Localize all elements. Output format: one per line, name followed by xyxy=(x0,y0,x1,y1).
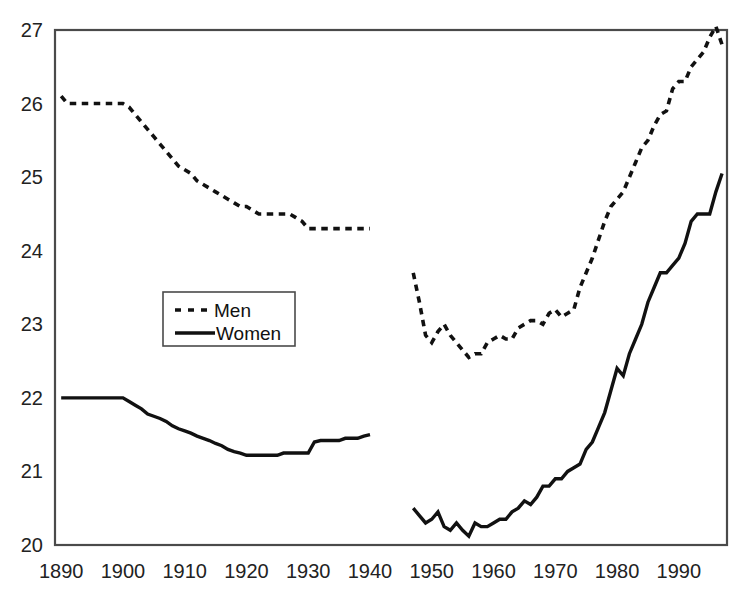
x-axis-tick-1930: 1930 xyxy=(286,560,331,582)
x-axis-tick-1950: 1950 xyxy=(410,560,455,582)
legend-label-women: Women xyxy=(216,323,281,344)
x-axis-tick-1960: 1960 xyxy=(471,560,516,582)
y-axis-tick-26: 26 xyxy=(21,93,43,115)
x-axis-tick-labels: 1890190019101920193019401950196019701980… xyxy=(39,560,701,582)
y-axis-tick-27: 27 xyxy=(21,19,43,41)
x-axis-tick-1970: 1970 xyxy=(533,560,578,582)
y-axis-tick-23: 23 xyxy=(21,313,43,335)
chart-background xyxy=(0,0,749,602)
legend-label-men: Men xyxy=(214,300,251,321)
x-axis-tick-1910: 1910 xyxy=(162,560,207,582)
y-axis-tick-22: 22 xyxy=(21,387,43,409)
x-axis-tick-1940: 1940 xyxy=(348,560,393,582)
y-axis-tick-25: 25 xyxy=(21,166,43,188)
y-axis-tick-24: 24 xyxy=(21,240,43,262)
x-axis-tick-1920: 1920 xyxy=(224,560,269,582)
y-axis-tick-20: 20 xyxy=(21,534,43,556)
y-axis-tick-21: 21 xyxy=(21,460,43,482)
chart-legend: Men Women xyxy=(163,292,295,346)
x-axis-tick-1990: 1990 xyxy=(657,560,702,582)
line-chart: 2021222324252627 18901900191019201930194… xyxy=(0,0,749,602)
x-axis-tick-1900: 1900 xyxy=(101,560,146,582)
x-axis-tick-1980: 1980 xyxy=(595,560,640,582)
x-axis-tick-1890: 1890 xyxy=(39,560,84,582)
chart-container: 2021222324252627 18901900191019201930194… xyxy=(0,0,749,602)
